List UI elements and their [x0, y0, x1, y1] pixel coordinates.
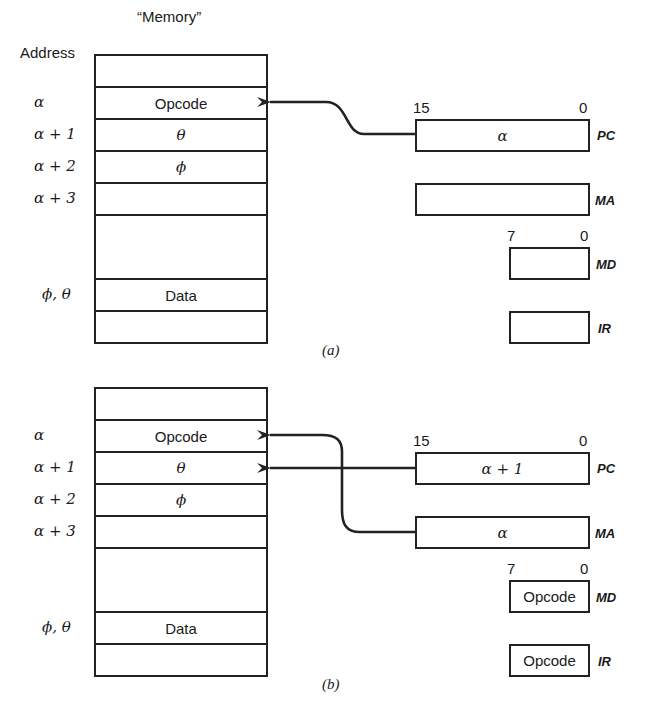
data-flow-arrows [0, 0, 653, 709]
arrow-ma-to-alpha [270, 435, 415, 532]
arrow-pc-to-alpha [270, 102, 415, 134]
